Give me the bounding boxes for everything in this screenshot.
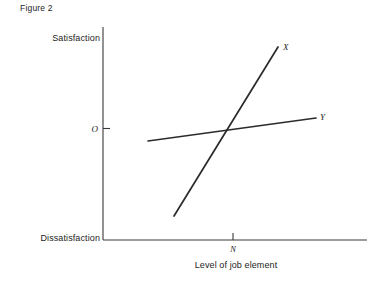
series-label-y: Y: [320, 112, 326, 122]
y-axis-top-label: Satisfaction: [52, 33, 100, 43]
x-axis-title: Level of job element: [195, 260, 278, 270]
series-label-x: X: [282, 42, 289, 52]
series-line-x: [174, 47, 278, 216]
y-axis-bottom-label: Dissatisfaction: [40, 233, 100, 243]
x-axis-tick-label-n: N: [229, 244, 237, 254]
y-axis-origin-label: O: [92, 124, 99, 134]
chart-plot-area: Satisfaction Dissatisfaction O N Level o…: [0, 0, 385, 283]
figure-container: Figure 2 Satisfaction Dissatisfaction O …: [0, 0, 385, 283]
